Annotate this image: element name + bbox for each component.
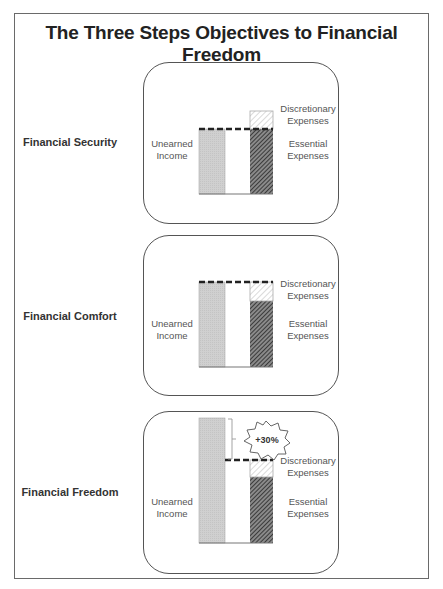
- discretionary-expenses-label: DiscretionaryExpenses: [277, 103, 339, 127]
- bar-chart-freedom: +30%: [144, 412, 340, 575]
- step-label-financial-security: Financial Security: [14, 136, 126, 148]
- bar-chart-comfort: [144, 236, 340, 397]
- unearned-income-label: UnearnedIncome: [146, 496, 198, 520]
- essential-expenses-bar: [250, 477, 273, 543]
- essential-expenses-label: EssentialExpenses: [277, 496, 339, 520]
- income-bar: [199, 129, 225, 194]
- unearned-income-label: UnearnedIncome: [146, 318, 198, 342]
- essential-expenses-bar: [250, 301, 273, 367]
- diagram-title: The Three Steps Objectives to Financial …: [14, 22, 429, 66]
- surplus-brace-icon: [228, 419, 236, 459]
- essential-expenses-label: EssentialExpenses: [277, 318, 339, 342]
- discretionary-expenses-bar: [250, 282, 273, 301]
- panel-financial-freedom: +30% UnearnedIncome DiscretionaryExpense…: [143, 411, 339, 574]
- essential-expenses-bar: [250, 129, 273, 194]
- income-bar: [199, 282, 225, 367]
- panel-financial-comfort: UnearnedIncome DiscretionaryExpenses Ess…: [143, 235, 339, 396]
- discretionary-expenses-label: DiscretionaryExpenses: [277, 455, 339, 479]
- step-label-financial-freedom: Financial Freedom: [14, 486, 126, 498]
- discretionary-expenses-bar: [250, 460, 273, 477]
- income-bar: [199, 418, 225, 543]
- discretionary-expenses-label: DiscretionaryExpenses: [277, 278, 339, 302]
- badge-text: +30%: [255, 435, 278, 445]
- discretionary-expenses-bar: [250, 111, 273, 129]
- essential-expenses-label: EssentialExpenses: [277, 138, 339, 162]
- step-label-financial-comfort: Financial Comfort: [14, 310, 126, 322]
- panel-financial-security: UnearnedIncome DiscretionaryExpenses Ess…: [143, 62, 339, 224]
- unearned-income-label: UnearnedIncome: [146, 138, 198, 162]
